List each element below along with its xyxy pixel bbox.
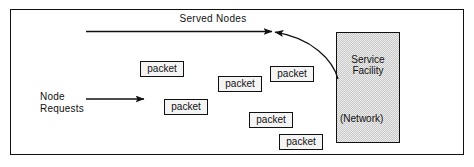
served-nodes-label: Served Nodes: [168, 13, 258, 25]
service-facility-subtitle: (Network): [340, 113, 383, 124]
service-facility-title: Service Facility: [337, 54, 399, 76]
packet-box: packet: [140, 61, 184, 77]
packet-box: packet: [270, 66, 314, 82]
diagram-canvas: Service Facility (Network) packet packet…: [0, 0, 474, 167]
packet-box: packet: [249, 112, 293, 128]
packet-box: packet: [279, 134, 323, 150]
packet-box: packet: [218, 76, 262, 92]
node-requests-label: Node Requests: [40, 91, 84, 114]
packet-box: packet: [164, 99, 208, 115]
service-facility-box: Service Facility (Network): [336, 32, 400, 143]
